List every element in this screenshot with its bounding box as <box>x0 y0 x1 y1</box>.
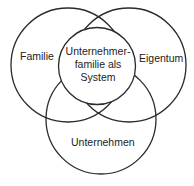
familie-label: Familie <box>20 50 54 63</box>
center-label-line-2: familie als <box>60 58 136 71</box>
venn-diagram <box>0 0 194 186</box>
center-label-line-1: Unternehmer- <box>60 45 136 58</box>
eigentum-label: Eigentum <box>139 52 183 65</box>
unternehmen-label: Unternehmen <box>71 136 135 149</box>
center-system-label: Unternehmer- familie als System <box>60 45 136 84</box>
center-label-line-3: System <box>60 71 136 84</box>
